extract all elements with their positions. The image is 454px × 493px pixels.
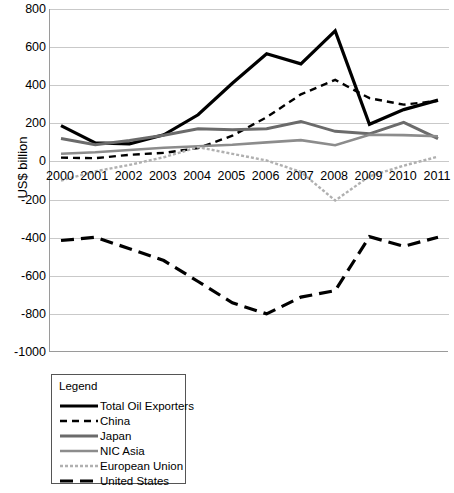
- x-tick-label: 2011: [424, 170, 451, 183]
- x-axis-tick-labels: 2000200120022003200420052006200720082009…: [49, 0, 448, 343]
- legend-label: NIC Asia: [100, 445, 145, 457]
- legend-title: Legend: [59, 380, 185, 392]
- x-tick-label: 2002: [115, 170, 143, 183]
- y-tick-label: -1000: [2, 346, 46, 359]
- legend-swatch: [59, 475, 99, 487]
- y-axis-tick-labels: 8006004002000-200-400-600-800-1000: [0, 0, 46, 493]
- legend-swatch: [59, 460, 99, 472]
- y-tick-label: 800: [2, 3, 46, 16]
- x-tick-label: 2000: [46, 170, 74, 183]
- y-tick-label: 200: [2, 117, 46, 130]
- y-tick-label: 400: [2, 79, 46, 92]
- x-tick-label: 2007: [286, 170, 314, 183]
- legend-swatch: [59, 445, 99, 457]
- legend-item: Japan: [59, 429, 185, 443]
- x-tick-label: 2005: [217, 170, 245, 183]
- legend-items: Total Oil ExportersChinaJapanNIC AsiaEur…: [59, 399, 185, 488]
- x-tick-label: 2003: [149, 170, 177, 183]
- legend-item: NIC Asia: [59, 444, 185, 458]
- legend-label: United States: [100, 475, 169, 487]
- y-tick-label: -400: [2, 231, 46, 244]
- legend-item: Total Oil Exporters: [59, 399, 185, 413]
- x-tick-label: 2008: [320, 170, 348, 183]
- chart-legend: Legend Total Oil ExportersChinaJapanNIC …: [51, 374, 186, 484]
- y-tick-label: -200: [2, 193, 46, 206]
- legend-label: Total Oil Exporters: [100, 400, 194, 412]
- y-tick-label: -600: [2, 270, 46, 283]
- legend-swatch: [59, 415, 99, 427]
- legend-swatch: [59, 430, 99, 442]
- x-tick-label: 2006: [252, 170, 280, 183]
- y-tick-label: -800: [2, 308, 46, 321]
- x-tick-label: 2009: [355, 170, 383, 183]
- legend-swatch: [59, 400, 99, 412]
- legend-item: China: [59, 414, 185, 428]
- y-tick-label: 600: [2, 41, 46, 54]
- x-tick-label: 2010: [389, 170, 417, 183]
- legend-item: United States: [59, 474, 185, 488]
- legend-label: Japan: [100, 430, 131, 442]
- legend-item: European Union: [59, 459, 185, 473]
- y-tick-label: 0: [2, 155, 46, 168]
- legend-label: European Union: [100, 460, 183, 472]
- x-tick-label: 2004: [183, 170, 211, 183]
- legend-label: China: [100, 415, 130, 427]
- x-tick-label: 2001: [80, 170, 108, 183]
- line-chart: US$ billion 8006004002000-200-400-600-80…: [0, 0, 454, 493]
